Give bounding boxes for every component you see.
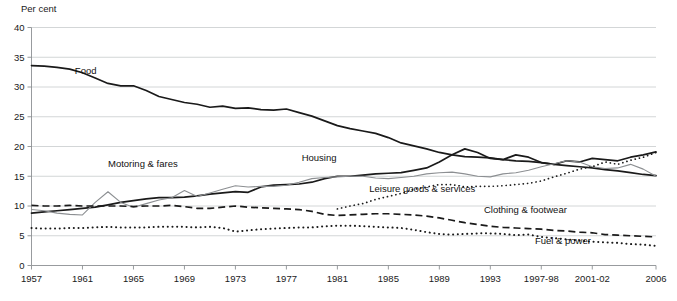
- x-tick-label-1989: 1989: [429, 273, 450, 284]
- axes-group: [28, 28, 657, 270]
- y-tick-label-5: 5: [19, 230, 24, 241]
- y-tick-label-15: 15: [14, 171, 25, 182]
- series-label-clothing-footwear: Clothing & footwear: [484, 204, 567, 215]
- y-tick-label-40: 40: [14, 22, 25, 33]
- y-tick-label-10: 10: [14, 200, 25, 211]
- x-tick-label-1981: 1981: [327, 273, 348, 284]
- x-tick-labels-group: 1957196119651969197319771981198519891993…: [21, 273, 667, 284]
- x-tick-label-1973: 1973: [225, 273, 246, 284]
- y-tick-label-30: 30: [14, 81, 25, 92]
- y-tick-label-25: 25: [14, 111, 25, 122]
- x-tick-label-1993: 1993: [480, 273, 501, 284]
- x-tick-label-1977: 1977: [276, 273, 297, 284]
- y-axis-title: Per cent: [21, 3, 57, 14]
- x-tick-label-1997-98: 1997-98: [524, 273, 559, 284]
- x-tick-label-1965: 1965: [123, 273, 144, 284]
- chart-canvas: 0510152025303540 19571961196519691973197…: [0, 0, 677, 301]
- y-tick-label-20: 20: [14, 141, 25, 152]
- x-tick-label-1961: 1961: [72, 273, 93, 284]
- x-tick-label-1985: 1985: [378, 273, 399, 284]
- y-tick-labels-group: 0510152025303540: [14, 22, 25, 271]
- percent-expenditure-line-chart: 0510152025303540 19571961196519691973197…: [0, 0, 677, 301]
- series-label-food: Food: [75, 65, 97, 76]
- series-label-leisure-goods-services: Leisure goods & services: [369, 183, 475, 194]
- series-label-fuel-power: Fuel & power: [535, 235, 591, 246]
- series-label-motoring-fares: Motoring & fares: [108, 158, 178, 169]
- y-tick-label-35: 35: [14, 52, 25, 63]
- series-paths-group: [32, 66, 657, 246]
- series-line-leisure-goods-services: [337, 152, 656, 209]
- series-label-housing: Housing: [302, 152, 337, 163]
- x-tick-label-1969: 1969: [174, 273, 195, 284]
- x-tick-label-2006: 2006: [645, 273, 666, 284]
- x-tick-label-2001-02: 2001-02: [575, 273, 610, 284]
- y-tick-label-0: 0: [19, 260, 24, 271]
- x-tick-label-1957: 1957: [21, 273, 42, 284]
